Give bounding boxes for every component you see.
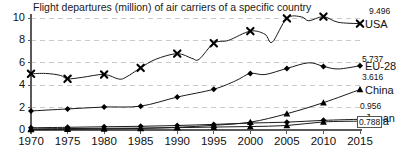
series-value-label-india: 0.788: [357, 116, 382, 128]
chart-container: Flight departures (million) of air carri…: [0, 0, 418, 152]
series-lines: [31, 16, 360, 130]
x-axis-tick-label: 1970: [11, 135, 51, 147]
x-axis-tick-label: 2000: [230, 135, 270, 147]
y-axis-tick-label: 6: [3, 57, 25, 68]
y-axis-tick-label: 2: [3, 102, 25, 113]
x-axis-tick-label: 1980: [84, 135, 124, 147]
y-axis-tick-label: 8: [3, 34, 25, 45]
series-value-label-eu-28: 5.737: [362, 54, 383, 64]
x-axis-tick-label: 2010: [303, 135, 343, 147]
series-value-label-usa: 9.496: [369, 6, 390, 16]
x-axis-tick-label: 1985: [121, 135, 161, 147]
series-value-label-japan: 0.956: [360, 101, 381, 111]
series-markers: [28, 13, 364, 132]
x-axis-ticks: [31, 130, 360, 134]
gridlines: [31, 18, 362, 130]
axes: [31, 14, 362, 134]
x-axis-tick-label: 1995: [194, 135, 234, 147]
x-axis-tick-label: 1975: [48, 135, 88, 147]
chart-plot-area: [0, 0, 418, 152]
x-axis-tick-label: 1990: [157, 135, 197, 147]
x-axis-tick-label: 2005: [267, 135, 307, 147]
y-axis-tick-label: 4: [3, 79, 25, 90]
y-axis-tick-label: 10: [3, 12, 25, 23]
y-axis-tick-label: 0: [3, 124, 25, 135]
x-axis-tick-label: 2015: [340, 135, 380, 147]
series-label-china: China: [365, 84, 394, 96]
series-value-label-china: 3.616: [362, 72, 383, 82]
series-label-usa: USA: [365, 18, 388, 30]
